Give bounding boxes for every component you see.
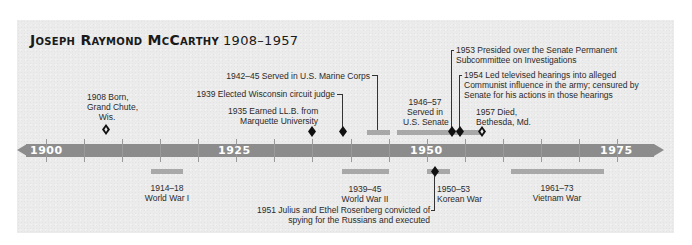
- axis-label-1975: 1975: [600, 144, 633, 157]
- title-name: Joseph Raymond McCarthy: [30, 32, 219, 48]
- timeline-axis: [26, 144, 654, 157]
- event-marines-bar: [367, 130, 390, 135]
- event-senate-label: 1946–57 Served in U.S. Senate: [403, 97, 447, 127]
- label-line: 1939–45: [340, 184, 390, 194]
- tick: [198, 139, 199, 162]
- label-line: Marquette University: [228, 116, 318, 126]
- label-line: Wis.: [87, 112, 127, 122]
- event-rosenberg-label: 1951 Julius and Ethel Rosenberg convicte…: [250, 205, 430, 225]
- label-line: World War I: [142, 193, 192, 203]
- label-line: World War II: [340, 194, 390, 204]
- event-llb-label: 1935 Earned LL.B. from Marquette Univers…: [228, 106, 318, 126]
- leader-line: [342, 94, 343, 128]
- tick: [160, 139, 161, 162]
- label-line: Subcommittee on Investigations: [456, 55, 617, 65]
- diamond-marker-icon: [339, 126, 346, 136]
- event-vietnam-label: 1961–73 Vietnam War: [532, 183, 582, 203]
- label-line: 1951 Julius and Ethel Rosenberg convicte…: [250, 205, 430, 215]
- event-died-label: 1957 Died, Bethesda, Md.: [476, 107, 531, 127]
- tick: [389, 139, 390, 162]
- leader-line: [431, 210, 435, 211]
- open-diamond-marker-icon: [478, 126, 485, 136]
- event-vietnam-bar: [511, 169, 604, 174]
- timeline-title: Joseph Raymond McCarthy1908–1957: [30, 32, 298, 48]
- tick: [84, 139, 85, 162]
- event-hearings-label: 1954 Led televised hearings into alleged…: [464, 70, 639, 100]
- event-ww1-label: 1914–18 World War I: [142, 183, 192, 203]
- event-judge-label: 1939 Elected Wisconsin circuit judge: [195, 89, 335, 99]
- event-ww2-label: 1939–45 World War II: [340, 184, 390, 204]
- title-years: 1908–1957: [223, 33, 298, 48]
- label-line: U.S. Senate: [403, 117, 447, 127]
- label-line: Vietnam War: [532, 193, 582, 203]
- event-korea-label: 1950–53 Korean War: [437, 184, 482, 204]
- label-line: Grand Chute,: [87, 102, 127, 112]
- axis-label-1900: 1900: [30, 144, 63, 157]
- axis-label-1925: 1925: [218, 144, 251, 157]
- label-line: 1914–18: [142, 183, 192, 193]
- label-line: Senate for his actions in those hearings: [464, 90, 639, 100]
- event-senate-bar: [397, 130, 481, 135]
- label-line: 1946–57: [403, 97, 447, 107]
- label-line: 1908 Born,: [87, 92, 127, 102]
- tick: [351, 139, 352, 162]
- event-marines-label: 1942–45 Served in U.S. Marine Corps: [220, 71, 370, 81]
- leader-line: [451, 50, 452, 128]
- tick: [312, 139, 313, 162]
- leader-line: [451, 50, 454, 51]
- label-line: Communist influence in the army; censure…: [464, 80, 639, 90]
- label-line: Served in: [403, 107, 447, 117]
- tick: [122, 139, 123, 162]
- label-line: Korean War: [437, 194, 482, 204]
- diamond-marker-icon: [456, 126, 463, 136]
- axis-label-1950: 1950: [410, 144, 443, 157]
- tick: [274, 139, 275, 162]
- leader-line: [459, 75, 462, 76]
- tick: [503, 139, 504, 162]
- label-line: 1954 Led televised hearings into alleged: [464, 70, 639, 80]
- tick: [541, 139, 542, 162]
- event-ww2-bar: [342, 169, 389, 174]
- label-line: 1935 Earned LL.B. from: [228, 106, 318, 116]
- diamond-marker-icon: [448, 126, 455, 136]
- leader-line: [459, 75, 460, 128]
- leader-line: [434, 176, 435, 211]
- diamond-marker-icon: [431, 166, 438, 176]
- open-diamond-marker-icon: [102, 124, 109, 134]
- leader-line: [377, 75, 378, 130]
- tick: [465, 139, 466, 162]
- tick: [579, 139, 580, 162]
- label-line: 1950–53: [437, 184, 482, 194]
- label-line: 1953 Presided over the Senate Permanent: [456, 45, 617, 55]
- event-subcommittee-label: 1953 Presided over the Senate Permanent …: [456, 45, 617, 65]
- diamond-marker-icon: [308, 126, 315, 136]
- event-ww1-bar: [151, 169, 183, 174]
- label-line: spying for the Russians and executed: [250, 215, 430, 225]
- label-line: 1961–73: [532, 183, 582, 193]
- event-born-label: 1908 Born, Grand Chute, Wis.: [87, 92, 127, 122]
- axis-arrow-right-icon: [654, 144, 664, 156]
- label-line: 1957 Died,: [476, 107, 531, 117]
